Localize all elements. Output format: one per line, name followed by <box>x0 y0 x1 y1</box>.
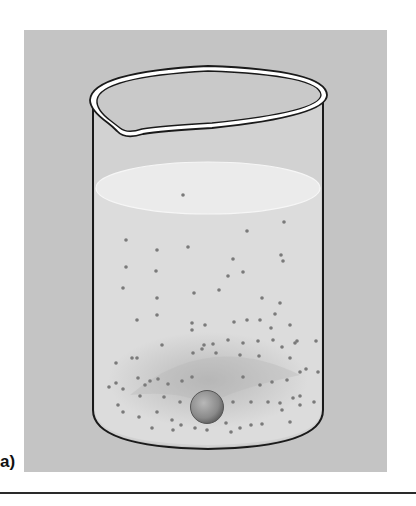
particle <box>257 354 261 358</box>
particle <box>226 338 230 342</box>
particle <box>107 385 111 389</box>
particle <box>121 387 125 391</box>
particle <box>238 426 242 430</box>
particle <box>130 356 134 360</box>
particle <box>258 383 262 387</box>
particle <box>114 361 118 365</box>
particle <box>192 291 196 295</box>
particle <box>191 351 195 355</box>
particle <box>203 323 207 327</box>
liquid-surface <box>96 162 320 214</box>
particle <box>156 377 160 381</box>
particle <box>260 422 264 426</box>
particle <box>298 403 302 407</box>
particle <box>279 253 283 257</box>
particle <box>124 265 128 269</box>
particle <box>154 269 158 273</box>
particle <box>121 410 125 414</box>
particle <box>270 380 274 384</box>
particle <box>160 343 164 347</box>
particle <box>136 376 140 380</box>
particle <box>116 403 120 407</box>
particle <box>214 351 218 355</box>
particle <box>278 401 282 405</box>
particle <box>211 342 215 346</box>
particle <box>143 383 147 387</box>
particle <box>312 400 316 404</box>
particle <box>316 370 320 374</box>
particle <box>280 408 284 412</box>
particle <box>241 375 245 379</box>
particle <box>179 423 183 427</box>
particle <box>178 400 182 404</box>
particle <box>155 410 159 414</box>
particle <box>137 415 141 419</box>
particle <box>190 328 194 332</box>
particle <box>288 420 292 424</box>
particle <box>298 370 302 374</box>
particle <box>249 423 253 427</box>
particle <box>241 270 245 274</box>
particle <box>148 379 152 383</box>
particle <box>124 238 128 242</box>
particle <box>135 356 139 360</box>
particle <box>155 248 159 252</box>
solid-sphere <box>191 391 224 424</box>
particle <box>285 378 289 382</box>
particle <box>280 345 284 349</box>
particle <box>114 381 118 385</box>
particle <box>269 326 273 330</box>
particle <box>245 229 249 233</box>
particle <box>180 379 184 383</box>
particle <box>217 288 221 292</box>
particle <box>256 339 260 343</box>
particle <box>170 418 174 422</box>
particle <box>181 193 185 197</box>
particle <box>238 353 242 357</box>
particle <box>241 341 245 345</box>
particle <box>288 323 292 327</box>
particle <box>282 220 286 224</box>
particle <box>291 396 295 400</box>
particle <box>249 400 253 404</box>
particle <box>278 301 282 305</box>
particle <box>314 339 318 343</box>
particle <box>150 426 154 430</box>
beaker-diagram <box>0 0 416 506</box>
particle <box>271 338 275 342</box>
particle <box>231 257 235 261</box>
particle <box>205 428 209 432</box>
particle <box>260 296 264 300</box>
particle <box>193 426 197 430</box>
particle <box>258 318 262 322</box>
particle <box>231 400 235 404</box>
particle <box>288 356 292 360</box>
particle <box>121 286 125 290</box>
particle <box>304 367 308 371</box>
particle <box>266 400 270 404</box>
particle <box>162 395 166 399</box>
particle <box>155 296 159 300</box>
particle <box>298 394 302 398</box>
divider-line <box>0 492 416 494</box>
particle <box>226 274 230 278</box>
particle <box>190 375 194 379</box>
particle <box>229 430 233 434</box>
particle <box>190 321 194 325</box>
particle <box>232 320 236 324</box>
particle <box>273 312 277 316</box>
particle <box>155 313 159 317</box>
particle <box>245 318 249 322</box>
particle <box>200 347 204 351</box>
panel-label: a) <box>0 452 15 472</box>
particle <box>171 428 175 432</box>
particle <box>295 339 299 343</box>
particle <box>135 318 139 322</box>
particle <box>186 245 190 249</box>
particle <box>281 259 285 263</box>
particle <box>166 382 170 386</box>
particle <box>138 394 142 398</box>
particle <box>202 343 206 347</box>
particle <box>224 421 228 425</box>
